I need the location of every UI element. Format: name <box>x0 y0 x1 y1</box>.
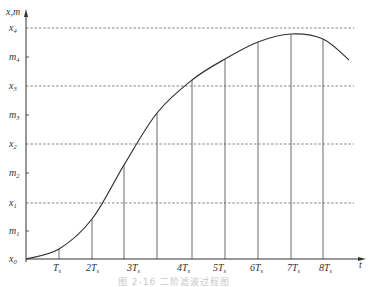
x-label-8Ts: 8Ts <box>319 262 333 274</box>
y-label-x4: x4 <box>8 22 17 34</box>
x-label-5Ts: 5Ts <box>213 262 227 274</box>
x-label-4Ts: 4Ts <box>177 262 191 274</box>
dashed-gridlines <box>26 28 354 231</box>
y-label-x1: x1 <box>8 197 17 209</box>
x-label-2Ts: 2Ts <box>86 262 100 274</box>
response-curve-diagram: x0m1x1m2x2m3x3m4x4 Ts2Ts3Ts4Ts5Ts6Ts7Ts8… <box>0 0 372 287</box>
y-label-x3: x3 <box>8 80 17 92</box>
figure-caption: 图 2-16 二阶滤波过程图 <box>118 277 230 287</box>
y-label-m4: m4 <box>9 51 20 63</box>
x-label-7Ts: 7Ts <box>287 262 301 274</box>
y-label-x0: x0 <box>8 253 17 265</box>
y-tick-labels: x0m1x1m2x2m3x3m4x4 <box>8 22 20 265</box>
x-tick-labels: Ts2Ts3Ts4Ts5Ts6Ts7Ts8Ts <box>53 262 333 274</box>
y-axis-arrow-icon <box>24 9 28 17</box>
y-axis-label: x,m <box>5 6 20 17</box>
y-label-m2: m2 <box>9 167 20 179</box>
x-label-1Ts: Ts <box>53 262 62 274</box>
x-label-3Ts: 3Ts <box>126 262 141 274</box>
response-curve <box>26 34 349 259</box>
sample-vertical-lines <box>59 34 323 259</box>
y-label-x2: x2 <box>8 138 17 150</box>
y-label-m1: m1 <box>9 225 19 237</box>
y-label-m3: m3 <box>9 109 20 121</box>
x-axis-label: t <box>359 259 362 270</box>
x-label-6Ts: 6Ts <box>250 262 264 274</box>
